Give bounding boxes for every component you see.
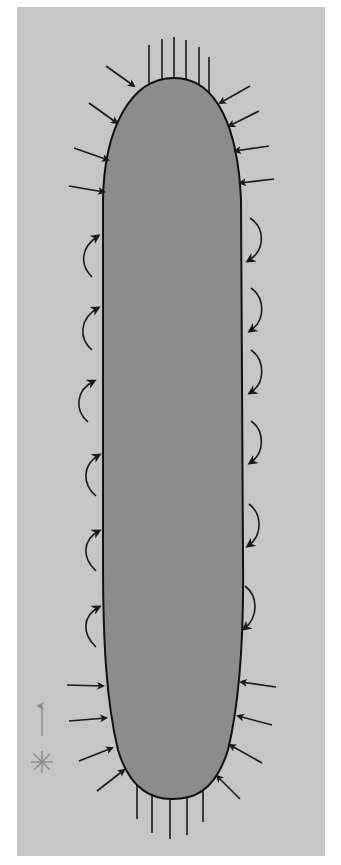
- capsule-body: [103, 78, 243, 799]
- legend-asterisk-icon: [31, 751, 53, 773]
- cell-diagram: [0, 0, 341, 865]
